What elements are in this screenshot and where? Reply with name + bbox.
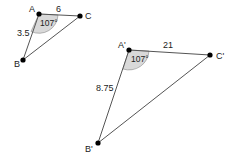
label-angle-a-prime: 107° bbox=[131, 54, 149, 64]
side-b-prime-c-prime bbox=[98, 55, 210, 143]
point-c-prime bbox=[207, 52, 212, 57]
point-b bbox=[20, 57, 25, 62]
label-b: B bbox=[14, 59, 20, 69]
point-a-prime bbox=[126, 47, 131, 52]
label-a: A bbox=[29, 4, 35, 14]
point-b-prime bbox=[95, 140, 100, 145]
label-side-a-prime-b-prime: 8.75 bbox=[96, 83, 114, 93]
side-a-prime-b-prime bbox=[98, 50, 129, 143]
label-side-a-prime-c-prime: 21 bbox=[163, 40, 173, 50]
label-side-ac: 6 bbox=[56, 4, 61, 14]
label-angle-a: 107° bbox=[40, 18, 58, 28]
point-a bbox=[36, 11, 41, 16]
point-c bbox=[77, 13, 82, 18]
triangle-abc: A B C 6 3.5 107° bbox=[14, 4, 92, 69]
label-a-prime: A' bbox=[118, 40, 126, 50]
triangle-a-prime-b-prime-c-prime: A' B' C' 21 8.75 107° bbox=[85, 40, 224, 154]
label-b-prime: B' bbox=[85, 144, 93, 154]
label-c-prime: C' bbox=[216, 51, 224, 61]
label-side-ab: 3.5 bbox=[17, 28, 30, 38]
label-c: C bbox=[85, 11, 92, 21]
similar-triangles-diagram: A B C 6 3.5 107° A' B' C' 21 8.75 107° bbox=[0, 0, 236, 165]
